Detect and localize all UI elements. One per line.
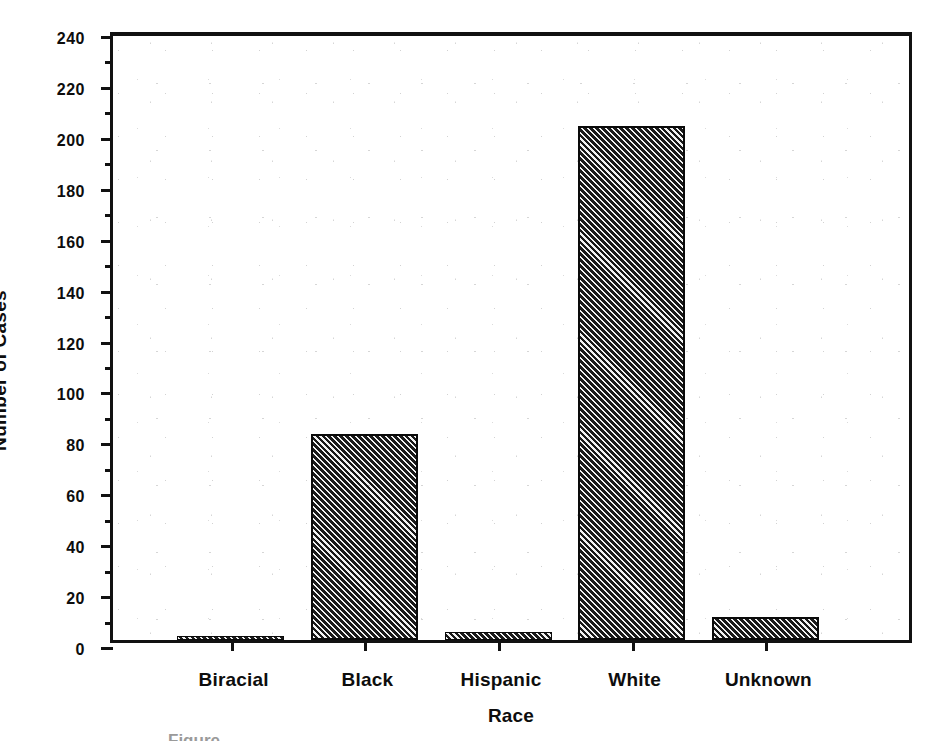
- y-tick-label: 160: [57, 234, 85, 252]
- y-tick-label: 20: [66, 590, 85, 608]
- bar-unknown: [712, 617, 819, 640]
- y-tick-major: 180: [101, 189, 113, 192]
- x-tick: Unknown: [765, 640, 768, 651]
- y-tick-label: 60: [66, 488, 85, 506]
- x-axis-title: Race: [110, 705, 912, 727]
- y-tick-major: 220: [101, 87, 113, 90]
- y-tick-major: 240: [101, 36, 113, 39]
- y-tick-major: 20: [101, 596, 113, 599]
- y-tick-major: 60: [101, 494, 113, 497]
- y-tick-label: 100: [57, 386, 85, 404]
- bar-hispanic: [445, 632, 552, 640]
- y-tick-minor: [105, 316, 113, 319]
- y-tick-minor: [105, 163, 113, 166]
- y-tick-label: 140: [57, 285, 85, 303]
- y-tick-major: 0: [101, 647, 113, 650]
- y-tick-major: 160: [101, 240, 113, 243]
- y-tick-label: 0: [76, 641, 85, 659]
- y-tick-major: 100: [101, 392, 113, 395]
- y-tick-major: 140: [101, 291, 113, 294]
- x-tick-label-hispanic: Hispanic: [461, 669, 542, 691]
- figure-bar-chart-cases-by-race: Number of Cases 020406080100120140160180…: [0, 0, 926, 741]
- y-tick-minor: [105, 418, 113, 421]
- x-tick-label-black: Black: [341, 669, 393, 691]
- y-tick-label: 220: [57, 81, 85, 99]
- y-tick-minor: [105, 367, 113, 370]
- x-tick: Biracial: [231, 640, 234, 651]
- y-tick-major: 40: [101, 545, 113, 548]
- y-tick-major: 80: [101, 443, 113, 446]
- y-tick-minor: [105, 571, 113, 574]
- y-tick-label: 180: [57, 183, 85, 201]
- y-tick-label: 80: [66, 437, 85, 455]
- cut-off-caption: Figure: [168, 731, 868, 741]
- bar-white: [578, 126, 685, 640]
- y-tick-major: 120: [101, 342, 113, 345]
- x-tick-label-white: White: [608, 669, 661, 691]
- y-tick-minor: [105, 112, 113, 115]
- y-tick-minor: [105, 469, 113, 472]
- x-tick-label-biracial: Biracial: [199, 669, 269, 691]
- plot-area: 020406080100120140160180200220240 Biraci…: [110, 32, 912, 643]
- x-tick: Hispanic: [498, 640, 501, 651]
- x-tick: White: [632, 640, 635, 651]
- y-tick-label: 40: [66, 539, 85, 557]
- y-tick-minor: [105, 61, 113, 64]
- scan-grain-overlay: [113, 36, 909, 640]
- bar-black: [311, 434, 418, 640]
- y-tick-label: 240: [57, 30, 85, 48]
- y-tick-minor: [105, 265, 113, 268]
- y-tick-major: 200: [101, 138, 113, 141]
- y-tick-minor: [105, 214, 113, 217]
- plot-inner: 020406080100120140160180200220240 Biraci…: [113, 36, 909, 640]
- y-tick-label: 200: [57, 132, 85, 150]
- y-tick-minor: [105, 622, 113, 625]
- x-tick-label-unknown: Unknown: [725, 669, 812, 691]
- x-tick: Black: [364, 640, 367, 651]
- y-tick-minor: [105, 520, 113, 523]
- y-tick-label: 120: [57, 336, 85, 354]
